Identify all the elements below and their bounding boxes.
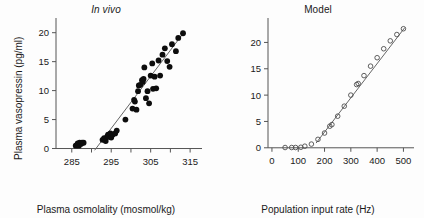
svg-text:10: 10 <box>38 85 49 96</box>
svg-text:500: 500 <box>395 155 411 166</box>
svg-text:10: 10 <box>250 90 261 101</box>
panel-in-vivo: In vivo 05101520285295305315 Plasma vaso… <box>0 0 212 218</box>
svg-text:300: 300 <box>343 155 359 166</box>
y-axis-title-left: Plasma vasopressin (pg/ml) <box>13 37 24 160</box>
svg-text:315: 315 <box>182 156 198 167</box>
panel-model: Model 051015200100200300400500 Mean vaso… <box>212 0 424 218</box>
svg-text:400: 400 <box>369 155 385 166</box>
svg-text:15: 15 <box>38 56 49 67</box>
svg-text:0: 0 <box>269 155 274 166</box>
svg-text:305: 305 <box>143 156 159 167</box>
figure-container: In vivo 05101520285295305315 Plasma vaso… <box>0 0 424 218</box>
svg-text:285: 285 <box>64 156 80 167</box>
scatter-plot-model: 051015200100200300400500 <box>212 0 424 218</box>
svg-text:15: 15 <box>250 63 261 74</box>
x-axis-title-left: Plasma osmolality (mosmol/kg) <box>0 204 212 215</box>
svg-text:5: 5 <box>44 114 49 125</box>
svg-text:20: 20 <box>250 37 261 48</box>
svg-text:5: 5 <box>256 116 261 127</box>
svg-text:20: 20 <box>38 27 49 38</box>
svg-text:0: 0 <box>256 142 261 153</box>
x-axis-title-right: Population input rate (Hz) <box>212 204 424 215</box>
scatter-plot-in-vivo: 05101520285295305315 <box>0 0 212 218</box>
svg-text:0: 0 <box>44 143 49 154</box>
svg-text:200: 200 <box>317 155 333 166</box>
svg-text:100: 100 <box>290 155 306 166</box>
svg-text:295: 295 <box>103 156 119 167</box>
